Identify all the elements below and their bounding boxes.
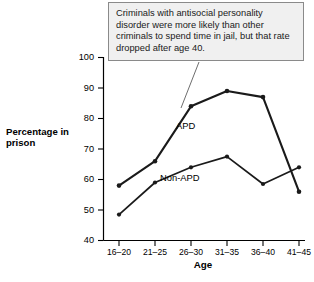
series-markers-non-apd <box>117 155 301 217</box>
x-tick-label-41-45: 41–45 <box>277 247 314 257</box>
series-line-apd <box>119 91 299 192</box>
series-label-apd: APD <box>176 120 195 131</box>
x-axis-ticks <box>119 241 299 247</box>
y-tick-label-40: 40 <box>68 235 94 245</box>
series-label-non-apd: Non-APD <box>160 172 200 183</box>
y-tick-label-100: 100 <box>68 52 94 62</box>
x-axis-title: Age <box>103 259 303 270</box>
y-axis-ticks <box>98 58 104 241</box>
y-tick-label-80: 80 <box>68 113 94 123</box>
y-tick-label-90: 90 <box>68 83 94 93</box>
series-line-non-apd <box>119 157 299 215</box>
y-axis-title: Percentage in prison <box>6 126 80 149</box>
y-tick-label-60: 60 <box>68 174 94 184</box>
callout-leader-line <box>181 62 199 108</box>
callout-box: Criminals with antisocial personality di… <box>108 2 304 61</box>
y-tick-label-50: 50 <box>68 205 94 215</box>
chart-figure: 100 90 80 70 60 50 40 16–20 21–25 26–30 … <box>0 0 314 282</box>
